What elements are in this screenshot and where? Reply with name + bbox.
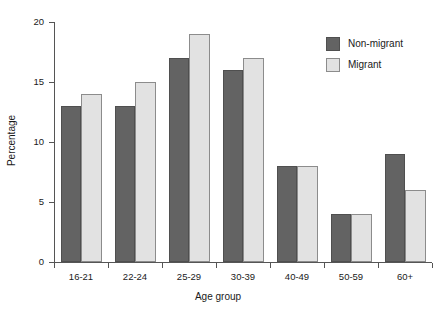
x-tick-label: 40-49	[270, 272, 324, 282]
x-tick-mark	[378, 263, 379, 268]
legend-label: Non-migrant	[348, 39, 403, 49]
y-tick-label: 10	[18, 137, 44, 147]
bar-50-59-migrant	[351, 214, 372, 262]
x-tick-label: 16-21	[54, 272, 108, 282]
y-tick-label: 20	[18, 17, 44, 27]
legend-swatch-icon	[326, 37, 340, 51]
bar-16-21-migrant	[81, 94, 102, 262]
legend-swatch-icon	[326, 58, 340, 72]
bar-chart: 05101520 Percentage 16-2122-2425-2930-39…	[0, 0, 436, 313]
x-tick-mark	[216, 263, 217, 268]
x-tick-label: 60+	[378, 272, 432, 282]
bar-60plus-non-migrant	[385, 154, 406, 262]
bar-50-59-non-migrant	[331, 214, 352, 262]
bar-22-24-migrant	[135, 82, 156, 262]
chart-legend: Non-migrantMigrant	[326, 33, 434, 75]
x-tick-mark	[324, 263, 325, 268]
x-tick-mark	[162, 263, 163, 268]
legend-item-migrant: Migrant	[326, 54, 434, 75]
legend-label: Migrant	[348, 60, 381, 70]
bar-40-49-non-migrant	[277, 166, 298, 262]
x-tick-label: 50-59	[324, 272, 378, 282]
bar-25-29-non-migrant	[169, 58, 190, 262]
bar-60plus-migrant	[405, 190, 426, 262]
y-tick-label: 0	[18, 257, 44, 267]
y-tick-label: 5	[18, 197, 44, 207]
bar-30-39-migrant	[243, 58, 264, 262]
x-tick-mark	[270, 263, 271, 268]
bar-25-29-migrant	[189, 34, 210, 262]
legend-item-non-migrant: Non-migrant	[326, 33, 434, 54]
x-tick-label: 22-24	[108, 272, 162, 282]
x-axis-title: Age group	[0, 291, 436, 302]
y-axis-title: Percentage	[6, 101, 17, 181]
bar-40-49-migrant	[297, 166, 318, 262]
bar-22-24-non-migrant	[115, 106, 136, 262]
x-tick-label: 30-39	[216, 272, 270, 282]
x-tick-mark	[54, 263, 55, 268]
x-axis-line	[54, 262, 432, 263]
bar-30-39-non-migrant	[223, 70, 244, 262]
y-tick-label: 15	[18, 77, 44, 87]
x-tick-mark	[108, 263, 109, 268]
bar-16-21-non-migrant	[61, 106, 82, 262]
x-tick-mark	[432, 263, 433, 268]
x-tick-label: 25-29	[162, 272, 216, 282]
